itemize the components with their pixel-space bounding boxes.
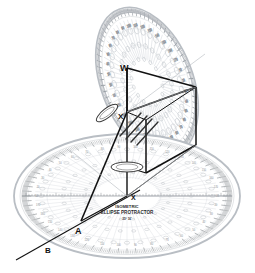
svg-text:110: 110	[100, 242, 105, 246]
svg-text:140: 140	[58, 228, 63, 232]
svg-text:170: 170	[214, 185, 219, 189]
svg-text:170: 170	[36, 203, 41, 207]
isometric-protractor-figure: 1020304050607080901001101201301401501601…	[0, 0, 255, 273]
label-b: B	[45, 246, 51, 255]
svg-text:160: 160	[41, 212, 46, 216]
ellipse-marker-center	[111, 162, 143, 172]
svg-text:140: 140	[192, 161, 197, 165]
svg-text:110: 110	[150, 147, 155, 151]
svg-text:150: 150	[48, 220, 53, 224]
diagram-canvas: 1020304050607080901001101201301401501601…	[0, 0, 255, 273]
brand-line-3: 35° 16'	[122, 217, 132, 221]
svg-text:160: 160	[209, 176, 214, 180]
svg-text:120: 120	[85, 238, 90, 242]
label-a: A	[75, 226, 82, 236]
brand-line-1: ISOMETRIC	[115, 204, 138, 209]
svg-text:150: 150	[202, 168, 207, 172]
svg-text:100: 100	[116, 243, 121, 247]
svg-text:120: 120	[165, 150, 170, 154]
label-w: W	[120, 63, 129, 73]
brand-line-2: ELLIPSE PROTRACTOR	[101, 210, 154, 215]
label-x-upper: X	[118, 112, 124, 121]
label-x-lower: X	[131, 194, 136, 201]
